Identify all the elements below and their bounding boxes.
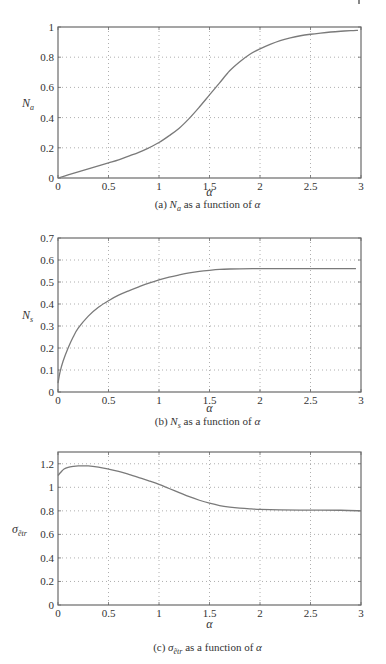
x-tick-label: 1 [156, 607, 162, 619]
x-tick-label: 0 [55, 607, 61, 619]
figure-caption: (b) Ns as a function of α [155, 415, 261, 430]
series-line-n-a [58, 30, 358, 178]
y-tick-label: 1 [49, 21, 55, 33]
figure-caption: (c) σẽtr as a function of α [153, 641, 262, 656]
y-tick-label: 0 [49, 599, 55, 611]
x-tick-label: 3 [358, 394, 364, 406]
x-tick-label: 3 [358, 180, 364, 192]
x-axis-label: α [206, 617, 213, 631]
y-tick-label: 1 [49, 481, 55, 493]
y-tick-label: 0.6 [40, 528, 54, 540]
x-tick-label: 2 [257, 394, 263, 406]
chart-a: 00.511.522.5300.20.40.60.81αNa(a) Na as … [0, 0, 386, 220]
y-tick-label: 0.8 [40, 505, 54, 517]
chart-c: 00.511.522.5300.20.40.60.811.2ασẽtr(c) σ… [0, 440, 386, 664]
x-tick-label: 1 [156, 394, 162, 406]
y-tick-label: 0.5 [40, 276, 54, 288]
y-tick-label: 1.2 [40, 458, 54, 470]
chart-b: 00.511.522.5300.10.20.30.40.50.60.7αNs(b… [0, 220, 386, 440]
y-tick-label: 0.4 [40, 298, 54, 310]
y-tick-label: 0.2 [40, 575, 54, 587]
x-tick-label: 2 [257, 180, 263, 192]
y-tick-label: 0.2 [40, 142, 54, 154]
y-tick-label: 0.4 [40, 112, 54, 124]
y-tick-label: 0.1 [40, 364, 54, 376]
x-tick-label: 0.5 [102, 607, 116, 619]
y-tick-label: 0.8 [40, 51, 54, 63]
x-tick-label: 0.5 [102, 394, 116, 406]
x-tick-label: 0 [55, 180, 61, 192]
y-tick-label: 0.6 [40, 81, 54, 93]
y-tick-label: 0.4 [40, 552, 54, 564]
x-tick-label: 0 [55, 394, 61, 406]
x-tick-label: 2 [257, 607, 263, 619]
figure-caption: (a) Na as a function of α [155, 198, 261, 213]
y-tick-label: 0.2 [40, 342, 54, 354]
x-tick-label: 2.5 [304, 394, 318, 406]
x-tick-label: 2.5 [304, 607, 318, 619]
x-tick-label: 0.5 [102, 180, 116, 192]
y-tick-label: 0.3 [40, 320, 54, 332]
x-tick-label: 2.5 [304, 180, 318, 192]
x-axis-label: α [206, 401, 213, 415]
y-tick-label: 0 [49, 386, 55, 398]
y-tick-label: 0 [49, 172, 55, 184]
x-tick-label: 1 [156, 180, 162, 192]
y-axis-label: σẽtr [12, 522, 28, 538]
x-tick-label: 3 [358, 607, 364, 619]
y-tick-label: 0.7 [40, 232, 54, 244]
x-axis-label: α [206, 185, 213, 199]
y-axis-label: Na [21, 96, 34, 112]
y-axis-label: Ns [21, 308, 33, 324]
y-tick-label: 0.6 [40, 254, 54, 266]
